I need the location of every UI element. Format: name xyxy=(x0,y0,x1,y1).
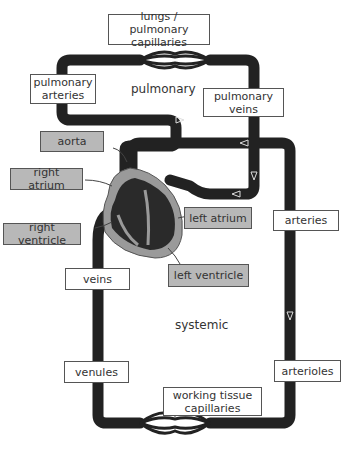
label-pulmonary-veins: pulmonary veins xyxy=(203,88,284,117)
label-left-ventricle: left ventricle xyxy=(168,264,249,287)
pulmonary-vein-vessel xyxy=(170,60,254,194)
label-left-atrium: left atrium xyxy=(184,207,252,229)
label-working-tissue-capillaries: working tissue capillaries xyxy=(163,387,262,416)
region-pulmonary: pulmonary xyxy=(131,82,196,96)
region-systemic: systemic xyxy=(175,318,228,332)
label-venules: venules xyxy=(64,361,129,383)
label-right-ventricle: right ventricle xyxy=(3,223,81,245)
label-aorta: aorta xyxy=(40,131,104,152)
label-right-atrium: right atrium xyxy=(10,168,83,190)
label-pulmonary-arteries: pulmonary arteries xyxy=(30,74,96,104)
label-veins: veins xyxy=(65,268,130,290)
label-arterioles: arterioles xyxy=(274,360,341,382)
lung-capillaries-icon xyxy=(140,52,210,68)
label-arteries: arteries xyxy=(273,210,339,231)
label-lungs-capillaries: lungs / pulmonary capillaries xyxy=(108,14,210,45)
